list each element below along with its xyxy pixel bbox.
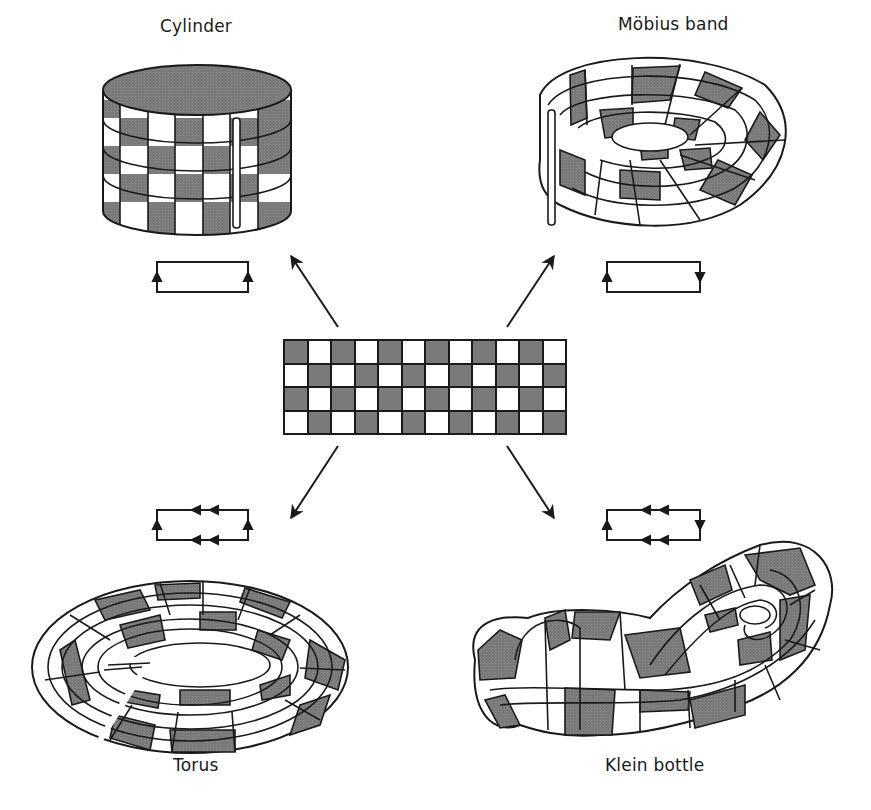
- sheet-cell: [355, 364, 379, 388]
- sheet-cell: [402, 411, 426, 435]
- sheet-cell: [449, 411, 473, 435]
- sheet-cell: [472, 340, 496, 364]
- sheet-cell: [378, 411, 402, 435]
- sheet-cell: [543, 364, 567, 388]
- sheet-cell: [496, 364, 520, 388]
- label-cylinder: Cylinder: [160, 16, 232, 36]
- sheet-cell: [449, 340, 473, 364]
- sheet-cell: [308, 364, 332, 388]
- label-mobius-band: Möbius band: [618, 14, 729, 34]
- sheet-cell: [284, 411, 308, 435]
- sheet-cell: [472, 364, 496, 388]
- edge-diagram-klein-bottle: [603, 506, 704, 544]
- label-torus: Torus: [173, 755, 219, 775]
- torus-illustration: [32, 581, 348, 753]
- source-checkerboard-sheet: [283, 339, 567, 435]
- sheet-cell: [519, 340, 543, 364]
- sheet-cell: [425, 340, 449, 364]
- sheet-cell: [355, 340, 379, 364]
- sheet-cell: [472, 411, 496, 435]
- sheet-cell: [378, 340, 402, 364]
- sheet-cell: [425, 411, 449, 435]
- sheet-cell: [519, 387, 543, 411]
- sheet-cell: [402, 387, 426, 411]
- klein-bottle-illustration: [473, 542, 832, 736]
- sheet-cell: [425, 387, 449, 411]
- sheet-cell: [543, 340, 567, 364]
- mobius-band-illustration: [539, 58, 785, 226]
- sheet-cell: [543, 411, 567, 435]
- sheet-cell: [284, 387, 308, 411]
- sheet-cell: [496, 340, 520, 364]
- sheet-cell: [449, 364, 473, 388]
- sheet-cell: [402, 340, 426, 364]
- arrow-to-mobius-band: [507, 256, 554, 327]
- sheet-cell: [449, 387, 473, 411]
- sheet-cell: [355, 387, 379, 411]
- sheet-cell: [331, 387, 355, 411]
- sheet-cell: [331, 411, 355, 435]
- sheet-cell: [355, 411, 379, 435]
- sheet-cell: [308, 387, 332, 411]
- sheet-cell: [378, 387, 402, 411]
- sheet-cell: [543, 387, 567, 411]
- edge-diagram-torus: [153, 506, 252, 544]
- arrow-to-torus: [291, 446, 338, 518]
- label-klein-bottle: Klein bottle: [605, 755, 704, 775]
- edge-diagram-cylinder: [153, 262, 252, 292]
- sheet-cell: [308, 340, 332, 364]
- arrow-to-klein-bottle: [507, 446, 554, 518]
- sheet-cell: [378, 364, 402, 388]
- sheet-cell: [284, 364, 308, 388]
- arrow-to-cylinder: [291, 256, 338, 327]
- edge-diagram-mobius-band: [603, 262, 704, 292]
- sheet-cell: [496, 387, 520, 411]
- sheet-cell: [402, 364, 426, 388]
- sheet-cell: [496, 411, 520, 435]
- sheet-cell: [284, 340, 308, 364]
- sheet-cell: [472, 387, 496, 411]
- cylinder-illustration: [100, 65, 295, 242]
- sheet-cell: [425, 364, 449, 388]
- sheet-cell: [331, 364, 355, 388]
- sheet-cell: [519, 411, 543, 435]
- sheet-cell: [519, 364, 543, 388]
- sheet-cell: [308, 411, 332, 435]
- sheet-cell: [331, 340, 355, 364]
